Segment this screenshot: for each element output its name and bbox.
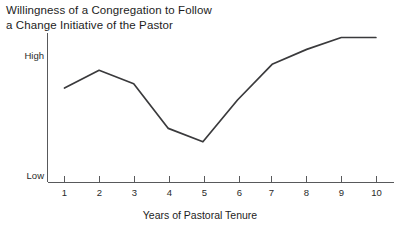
x-tick-label-8: 8	[295, 187, 319, 198]
x-tick-label-7: 7	[260, 187, 284, 198]
y-axis-low-label: Low	[4, 170, 44, 181]
chart-figure: Willingness of a Congregation to Follow …	[0, 0, 400, 228]
x-tick-label-1: 1	[53, 187, 77, 198]
x-axis-ticks	[65, 176, 377, 182]
x-axis-title: Years of Pastoral Tenure	[0, 209, 400, 221]
y-axis-high-label: High	[4, 50, 44, 61]
x-tick-label-9: 9	[330, 187, 354, 198]
x-tick-label-3: 3	[123, 187, 147, 198]
x-tick-label-4: 4	[158, 187, 182, 198]
x-tick-label-2: 2	[88, 187, 112, 198]
data-series-line	[65, 38, 376, 142]
x-tick-label-6: 6	[228, 187, 252, 198]
x-tick-label-10: 10	[365, 187, 389, 198]
x-tick-label-5: 5	[193, 187, 217, 198]
